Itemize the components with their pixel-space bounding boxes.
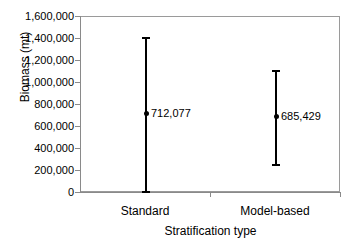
- y-axis-tick-mark: [75, 60, 81, 61]
- x-axis-title: Stratification type: [80, 224, 341, 238]
- x-axis-category-label: Model-based: [240, 205, 309, 218]
- data-point-value-label: 685,429: [281, 111, 321, 122]
- y-axis-tick-label: 600,000: [14, 121, 74, 132]
- plot-area: [80, 16, 340, 192]
- y-axis-tick-label: 400,000: [14, 143, 74, 154]
- data-point-value-label: 712,077: [151, 108, 191, 119]
- y-axis-tick-mark: [75, 38, 81, 39]
- x-axis-category-label: Standard: [121, 205, 170, 218]
- y-axis-tick-mark: [75, 170, 81, 171]
- y-axis-tick-label: 1,000,000: [14, 77, 74, 88]
- y-axis-tick-label: 1,200,000: [14, 55, 74, 66]
- y-axis-tick-mark: [75, 82, 81, 83]
- y-axis-tick-label: 800,000: [14, 99, 74, 110]
- y-axis-tick-mark: [75, 126, 81, 127]
- error-bar-cap-upper: [142, 37, 150, 39]
- y-axis-tick-label: 1,400,000: [14, 33, 74, 44]
- y-axis-tick-label: 200,000: [14, 165, 74, 176]
- x-axis-tick-mark: [210, 192, 211, 197]
- error-bar-cap-lower: [142, 191, 150, 193]
- y-axis-tick-labels: 0200,000400,000600,000800,0001,000,0001,…: [14, 0, 74, 247]
- y-axis-tick-mark: [75, 104, 81, 105]
- y-axis-tick-mark: [75, 16, 81, 17]
- y-axis-tick-label: 1,600,000: [14, 11, 74, 22]
- error-bar-cap-lower: [272, 164, 280, 166]
- x-axis-tick-mark: [340, 192, 341, 197]
- y-axis-tick-label: 0: [14, 187, 74, 198]
- chart-figure: Biomass (mt) 0200,000400,000600,000800,0…: [0, 0, 351, 247]
- y-axis-tick-mark: [75, 192, 81, 193]
- y-axis-tick-mark: [75, 148, 81, 149]
- error-bar-cap-upper: [272, 70, 280, 72]
